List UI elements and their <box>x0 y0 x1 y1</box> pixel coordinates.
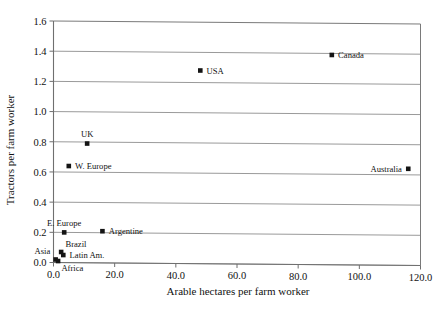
marker-square <box>406 167 411 172</box>
data-point-label-2: UK <box>81 129 94 139</box>
chart-canvas: 0.020.040.060.080.0100.0120.0 0.00.20.40… <box>0 0 446 311</box>
y-tick-label-1.0: 1.0 <box>33 106 46 117</box>
gridline-y-0.6 <box>54 172 421 175</box>
y-tick-label-1.4: 1.4 <box>33 46 47 57</box>
data-point-argentine: Argentine <box>100 226 143 236</box>
x-tick-label-100.0: 100.0 <box>348 271 372 282</box>
plot-frame-top <box>54 21 421 24</box>
data-point-label-4: W. Europe <box>75 161 112 171</box>
data-point-australia: Australia <box>370 164 410 174</box>
data-point-uk: UK <box>81 129 94 146</box>
data-point-canada: Canada <box>330 50 365 60</box>
y-tick-label-1.2: 1.2 <box>33 76 46 87</box>
y-tick-label-1.6: 1.6 <box>33 16 46 27</box>
y-tick-label-0.4: 0.4 <box>33 197 47 208</box>
y-axis-ticks: 0.00.20.40.60.81.01.21.41.6 <box>33 16 53 268</box>
marker-square <box>56 259 61 264</box>
x-tick-label-80.0: 80.0 <box>289 271 307 282</box>
data-point-latin-am: Latin Am. <box>61 250 104 260</box>
marker-square <box>62 230 67 235</box>
data-point-label-5: Argentine <box>109 226 143 236</box>
x-axis-title: Arable hectares per farm worker <box>167 285 310 297</box>
data-point-label-9: Asia <box>35 246 51 256</box>
data-point-label-10: Africa <box>61 263 83 273</box>
y-axis-title: Tractors per farm worker <box>4 94 16 205</box>
data-point-label-7: Brazil <box>65 239 87 249</box>
data-point-label-3: Australia <box>370 164 402 174</box>
marker-square <box>66 164 71 169</box>
gridline-y-1.2 <box>54 81 421 84</box>
data-point-usa: USA <box>198 66 225 76</box>
data-point-label-0: Canada <box>338 50 364 60</box>
x-tick-label-40.0: 40.0 <box>167 270 185 281</box>
marker-square <box>61 253 66 258</box>
marker-square <box>198 68 203 73</box>
data-point-label-8: Latin Am. <box>70 250 105 260</box>
marker-square <box>85 141 90 146</box>
y-tick-label-0.2: 0.2 <box>33 227 46 238</box>
y-tick-label-0.6: 0.6 <box>33 167 46 178</box>
x-tick-label-20.0: 20.0 <box>105 269 123 280</box>
gridline-y-1.0 <box>54 112 421 115</box>
y-tick-label-0.8: 0.8 <box>33 137 46 148</box>
x-tick-label-120.0: 120.0 <box>409 272 433 283</box>
scatter-chart: 0.020.040.060.080.0100.0120.0 0.00.20.40… <box>0 0 446 311</box>
y-tick-label-0.0: 0.0 <box>33 257 46 268</box>
data-point-label-1: USA <box>207 66 225 76</box>
data-point-w-europe: W. Europe <box>66 161 111 171</box>
gridline-y-0.8 <box>54 142 421 145</box>
marker-square <box>100 229 105 234</box>
data-point-label-6: E. Europe <box>47 218 82 228</box>
marker-square <box>330 53 335 58</box>
x-tick-label-0.0: 0.0 <box>47 269 60 280</box>
gridline-y-0.4 <box>54 202 421 205</box>
gridline-y-1.4 <box>54 51 421 54</box>
x-tick-label-60.0: 60.0 <box>228 270 246 281</box>
